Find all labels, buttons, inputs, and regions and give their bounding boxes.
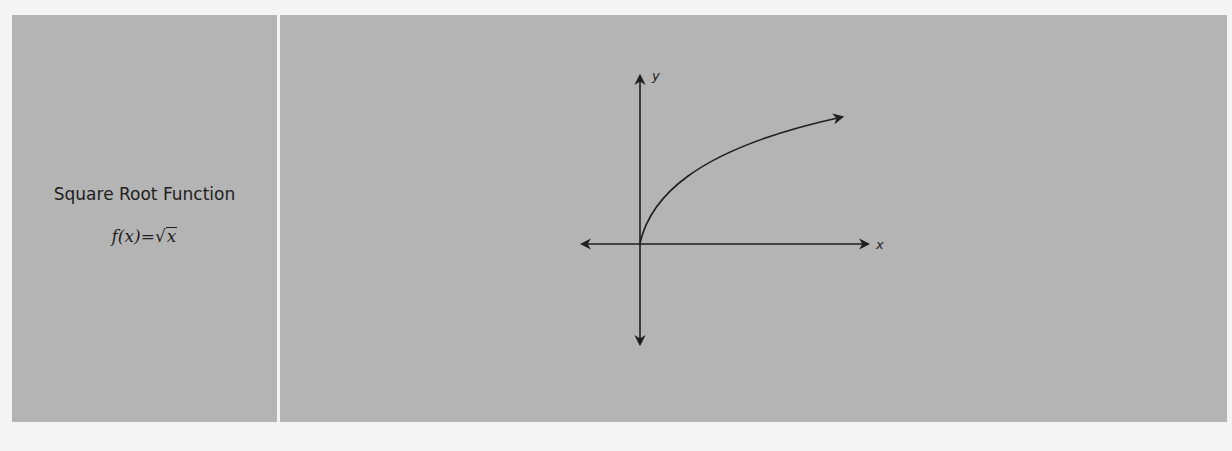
- y-axis-label: y: [651, 68, 660, 83]
- x-axis-label: x: [875, 237, 884, 252]
- sqrt-curve: [640, 117, 842, 243]
- graph: y x: [0, 0, 1232, 451]
